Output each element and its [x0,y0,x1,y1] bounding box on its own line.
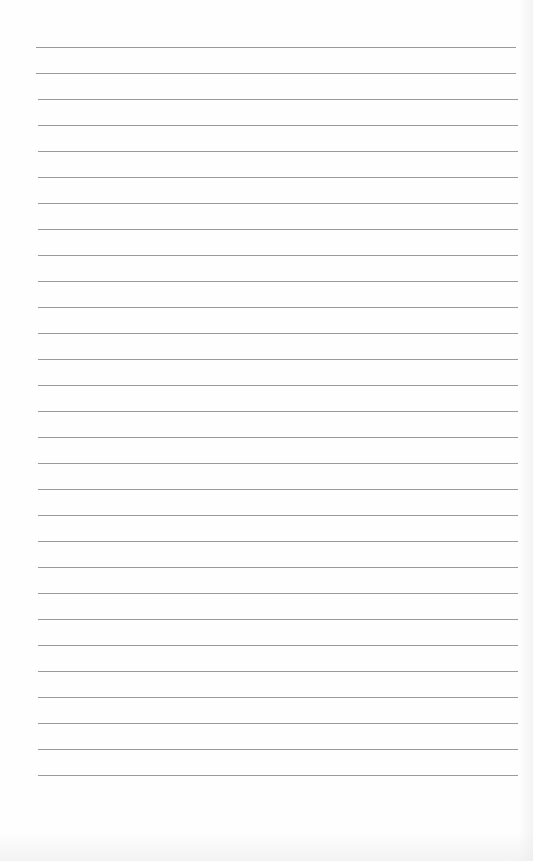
lined-paper-page [0,0,533,861]
ruled-line [38,99,518,100]
ruled-line [38,645,518,646]
ruled-line [38,307,518,308]
ruled-line [38,567,518,568]
page-bottom-shading [0,831,533,861]
ruled-line [38,177,518,178]
ruled-line [38,359,518,360]
ruled-line [38,151,518,152]
ruled-line [38,515,518,516]
ruled-line [38,125,518,126]
ruled-line [38,255,518,256]
ruled-line [38,333,518,334]
ruled-line [38,489,518,490]
ruled-line [38,671,518,672]
ruled-line [38,593,518,594]
ruled-line [38,775,518,776]
ruled-line [38,203,518,204]
ruled-line [38,749,518,750]
ruled-line [36,47,516,48]
ruled-line [38,541,518,542]
ruled-line [38,463,518,464]
ruled-line [38,697,518,698]
ruled-line [38,385,518,386]
ruled-line [38,619,518,620]
ruled-line [38,411,518,412]
ruled-line [38,723,518,724]
ruled-line [38,437,518,438]
ruled-line [36,73,516,74]
ruled-line [38,229,518,230]
ruled-line [38,281,518,282]
